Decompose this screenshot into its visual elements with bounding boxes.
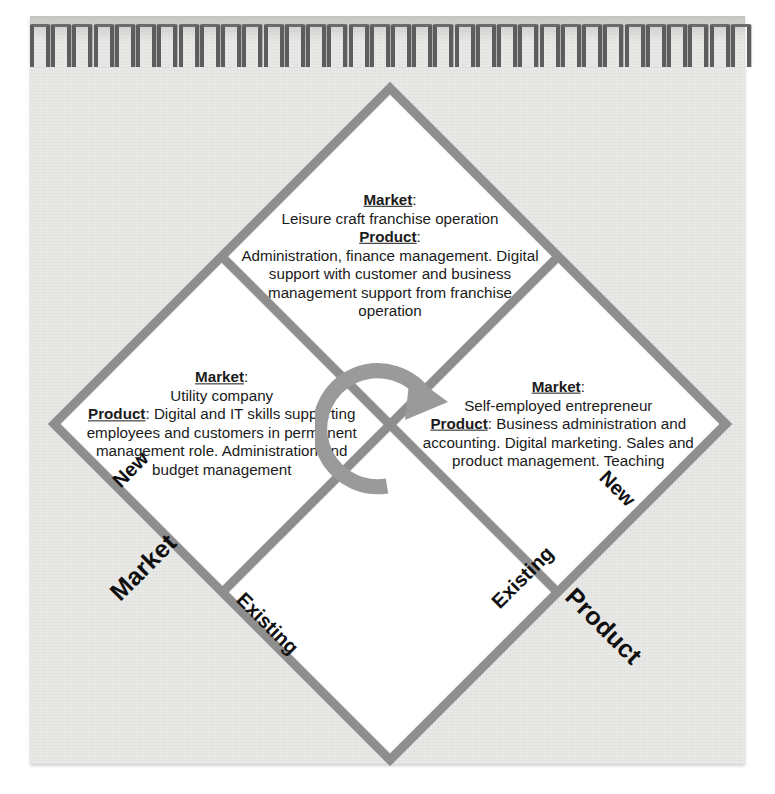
spiral-coil xyxy=(497,24,517,67)
spiral-coil xyxy=(433,24,453,67)
spiral-coil xyxy=(72,24,92,67)
quadrant-bottom-product-label: Product xyxy=(88,405,145,422)
spiral-coil xyxy=(710,24,730,67)
quadrant-top-product-label: Product xyxy=(430,415,487,432)
colon-top-product: : xyxy=(487,415,491,432)
spiral-coil xyxy=(136,24,156,67)
spiral-coil xyxy=(242,24,262,67)
spiral-coil xyxy=(476,24,496,67)
quadrant-left-market-text: Leisure craft franchise operation xyxy=(282,210,499,227)
colon-left-product: : xyxy=(417,228,421,245)
spiral-coil xyxy=(540,24,560,67)
spiral-coil xyxy=(391,24,411,67)
spiral-coil xyxy=(561,24,581,67)
spiral-coil xyxy=(518,24,538,67)
spiral-coil xyxy=(455,24,475,67)
quadrant-left-product-text: Administration, finance management. Digi… xyxy=(241,247,538,320)
spiral-coil xyxy=(30,24,50,67)
spiral-coil xyxy=(221,24,241,67)
spiral-coil xyxy=(667,24,687,67)
quadrant-bottom-text: Market: Utility company Product: Digital… xyxy=(72,368,372,479)
spiral-coil xyxy=(327,24,347,67)
quadrant-bottom-market-label: Market xyxy=(195,368,244,385)
spiral-coil xyxy=(200,24,220,67)
spiral-coil xyxy=(157,24,177,67)
notebook-figure-root: Market: Leisure craft franchise operatio… xyxy=(0,0,775,794)
spiral-coil xyxy=(731,24,751,67)
spiral-coil xyxy=(370,24,390,67)
spiral-coil xyxy=(349,24,369,67)
spiral-coil xyxy=(603,24,623,67)
quadrant-bottom-market-text: Utility company xyxy=(171,387,274,404)
spiral-coil xyxy=(51,24,71,67)
spiral-coil xyxy=(625,24,645,67)
quadrant-top-market-text: Self-employed entrepreneur xyxy=(464,396,652,413)
quadrant-left-text: Market: Leisure craft franchise operatio… xyxy=(240,191,540,321)
quadrant-top-text: Market: Self-employed entrepreneur Produ… xyxy=(408,378,708,471)
spiral-coil xyxy=(582,24,602,67)
spiral-coil xyxy=(94,24,114,67)
quadrant-top-market-label: Market xyxy=(531,378,580,395)
colon-left-market: : xyxy=(412,191,416,208)
spiral-coil xyxy=(285,24,305,67)
colon-top-market: : xyxy=(580,378,584,395)
spiral-coil xyxy=(264,24,284,67)
quadrant-left-product-label: Product xyxy=(359,228,416,245)
spiral-binding xyxy=(28,24,750,68)
spiral-coil xyxy=(412,24,432,67)
spiral-coil xyxy=(688,24,708,67)
spiral-coil xyxy=(646,24,666,67)
spiral-coil xyxy=(306,24,326,67)
colon-bottom-product: : xyxy=(146,405,150,422)
quadrant-left-market-label: Market xyxy=(363,191,412,208)
spiral-coil xyxy=(179,24,199,67)
spiral-coil xyxy=(115,24,135,67)
colon-bottom-market: : xyxy=(244,368,248,385)
